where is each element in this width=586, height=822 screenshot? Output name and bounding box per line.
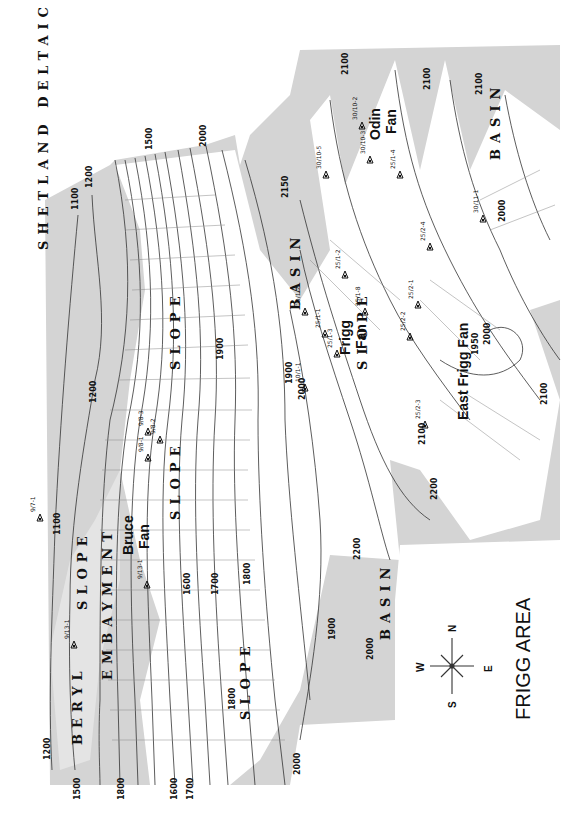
well-label: 25/1-3 [326, 328, 333, 348]
well-label: 30/10-2 [351, 97, 358, 120]
contour-label: 2000 [293, 752, 302, 775]
fan-label-odin: Odin [367, 108, 383, 140]
contour-label: 2100 [341, 52, 350, 75]
well-label: 25/1-8 [354, 286, 361, 306]
fan-label-frigg-2: Fan [353, 324, 369, 349]
region-label-basin3: BASIN [488, 82, 503, 160]
contour-label: 1200 [89, 380, 98, 403]
well-icon [37, 514, 43, 521]
well-label: 9/8-2 [149, 418, 156, 434]
well-label: 25/2-1 [407, 279, 414, 299]
contour-label: 1950 [471, 332, 480, 355]
contour-label: 1900 [328, 617, 337, 640]
well-label: 30/10-5 [315, 146, 322, 169]
map-title: FRIGG AREA [512, 597, 534, 720]
contour-label: 2100 [540, 382, 549, 405]
region-label-basin2: BASIN [378, 562, 393, 640]
well-label: 9/7-1 [29, 496, 36, 512]
compass-east: E [483, 665, 494, 672]
contour-label: 1600 [170, 777, 179, 800]
region-label-embayment: EMBAYMENT [100, 526, 115, 680]
fan-label-bruce: Bruce [120, 515, 136, 555]
compass-west: W [415, 662, 426, 672]
well-label: 9/13-1 [136, 559, 143, 579]
region-label-beryl: BERYL [70, 665, 85, 745]
well-label: 25/1-2 [334, 249, 341, 269]
well-label: 9/13-1 [63, 619, 70, 639]
contour-label: 2100 [475, 72, 484, 95]
well-label: 25/1-4 [389, 149, 396, 169]
contour-label: 2000 [199, 124, 208, 147]
region-label-slope3: SLOPE [168, 440, 183, 520]
fan-label-bruce-2: Fan [136, 524, 152, 549]
fan-label-frigg: Frigg [337, 320, 353, 355]
contour-label: 1600 [183, 572, 192, 595]
region-label-slope2: SLOPE [168, 290, 183, 370]
region-label-slope4: SLOPE [238, 640, 253, 720]
region-label-shetland: SHETLAND DELTAIC PLATFORM [36, 0, 51, 250]
well-label: 25/2-3 [414, 399, 421, 419]
compass-star-icon [430, 638, 474, 694]
contour-label: 1800 [243, 562, 252, 585]
contour-label: 2000 [366, 637, 375, 660]
contour-label: 2000 [498, 199, 507, 222]
well-label: 9/8-1 [137, 436, 144, 452]
contour-label: 1700 [186, 777, 195, 800]
well-label: 25/2-2 [399, 311, 406, 331]
frigg-area-map: SHETLAND DELTAIC PLATFORMBERYLEMBAYMENTS… [0, 0, 586, 822]
well-label: 10/1-2 [294, 286, 301, 306]
contour-label: 1200 [85, 165, 94, 188]
compass-north: N [447, 625, 458, 632]
fan-label-east_frigg: East Frigg Fan [455, 323, 471, 420]
contour-label: 1200 [43, 737, 52, 760]
contour-label: 2000 [483, 322, 492, 345]
fan-label-odin-2: Fan [383, 109, 399, 134]
contour-label: 1100 [53, 512, 62, 535]
well-label: 25/1-1 [314, 308, 321, 328]
compass-rose: N S E W [415, 625, 494, 708]
contour-label: 1500 [73, 777, 82, 800]
contour-label: 1100 [71, 187, 80, 210]
well-label: 10/1-1 [294, 362, 301, 382]
contour-label: 1700 [211, 572, 220, 595]
contour-label: 1800 [117, 777, 126, 800]
compass-south: S [447, 701, 458, 708]
well-label: 30/11-1 [472, 190, 479, 213]
contour-label: 1900 [216, 337, 225, 360]
contour-label: 1900 [285, 361, 294, 384]
well-label: 25/2-4 [419, 221, 426, 241]
contour-label: 2200 [430, 477, 439, 500]
well-label: 9/8-3 [137, 410, 144, 426]
well-label: 30/10-3 [359, 131, 366, 154]
well-marker: 9/7-1 [29, 496, 43, 521]
contour-label: 1500 [145, 127, 154, 150]
contour-label: 2200 [353, 537, 362, 560]
contour-label: 1800 [228, 687, 237, 710]
contour-label: 2100 [423, 67, 432, 90]
contour-label: 2150 [281, 175, 290, 198]
region-label-slope1: SLOPE [75, 530, 90, 610]
